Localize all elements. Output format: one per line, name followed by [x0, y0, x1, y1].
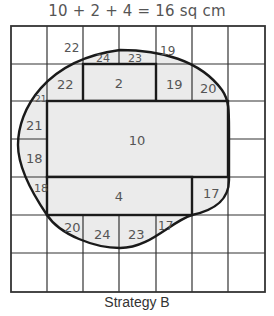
rectangle-label-10: 10 — [129, 133, 146, 148]
partial-label: 18 — [26, 151, 43, 166]
partial-label: 17 — [158, 219, 173, 233]
partial-label: 18 — [34, 182, 48, 195]
partial-label: 21 — [35, 94, 46, 104]
grid-diagram: 2 10 4 22 24 23 19 22 19 20 21 21 18 18 … — [0, 0, 274, 316]
rectangle-label-4: 4 — [115, 189, 123, 204]
partial-label: 24 — [94, 227, 111, 242]
partial-label: 21 — [26, 118, 43, 133]
partial-label: 19 — [160, 44, 175, 58]
strategy-caption: Strategy B — [0, 294, 274, 310]
partial-label: 20 — [200, 81, 217, 96]
partial-label: 22 — [57, 77, 74, 92]
partial-label: 23 — [128, 227, 145, 242]
partial-label: 24 — [96, 52, 110, 65]
partial-label: 22 — [64, 41, 79, 55]
partial-label: 19 — [166, 77, 183, 92]
partial-label: 17 — [203, 186, 220, 201]
partial-label: 23 — [128, 52, 142, 65]
rectangle-label-2: 2 — [115, 76, 123, 91]
partial-label: 20 — [64, 220, 81, 235]
